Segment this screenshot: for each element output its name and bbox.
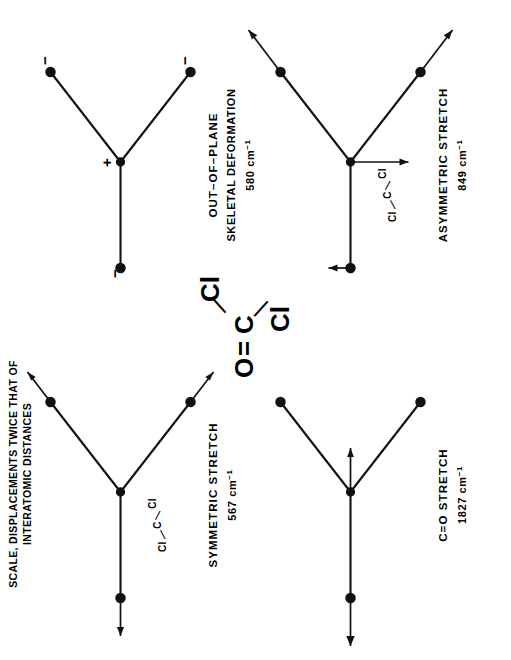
caption-asymmetric-stretch-wavenumber: 849 cm−1: [454, 0, 468, 330]
inset-cl-left: Cl: [386, 211, 397, 222]
bond-c-cl-lower: [120, 72, 190, 162]
molecular-structure-phosgene: O = C — Cl — Cl: [190, 268, 300, 378]
bond-c-cl-upper: [280, 72, 350, 162]
figure-page: SCALE, DISPLACEMENTS TWICE THAT OF INTER…: [0, 0, 511, 660]
arrow-o-head: [346, 636, 354, 646]
arrow-o-head: [328, 265, 337, 272]
atom-chlorine-lower: [416, 398, 424, 406]
arrow-o-head: [116, 627, 123, 636]
scale-note-line-1: SCALE, DISPLACEMENTS TWICE THAT OF: [6, 324, 20, 624]
arrow-c-head: [347, 448, 354, 457]
inset-skeleton-asymmetric: Cl—C—Cl: [386, 168, 397, 222]
bond-c-cl-upper: [50, 402, 120, 492]
sign-center-plus: +: [98, 158, 113, 167]
c-o-stretch-diagram: [258, 330, 443, 660]
atom-chlorine-lower: [186, 68, 194, 76]
atom-carbon: [116, 488, 123, 495]
out-of-plane-diagram: + − − −: [28, 0, 213, 330]
wavenumber-exponent-asymmetric: −1: [454, 139, 463, 149]
symmetric-stretch-diagram: [28, 330, 213, 660]
wavenumber-exponent-c-o: −1: [454, 466, 463, 476]
sign-oxygen-minus: −: [106, 269, 121, 278]
mode-panel-c-o-stretch: C=O STRETCH 1827 cm−1: [258, 330, 508, 660]
bond-c-cl-upper: [50, 72, 120, 162]
atom-chlorine-upper: [276, 398, 284, 406]
figure-rotated-canvas: SCALE, DISPLACEMENTS TWICE THAT OF INTER…: [0, 0, 511, 660]
sign-chlorine-upper-minus: −: [36, 56, 51, 65]
caption-c-o-stretch-title: C=O STRETCH: [436, 330, 448, 660]
atom-label-chlorine-upper: Cl: [194, 276, 225, 302]
sign-chlorine-lower-minus: −: [176, 56, 191, 65]
caption-c-o-stretch-wavenumber: 1827 cm−1: [454, 330, 468, 660]
wavenumber-exponent-symmetric: −1: [224, 469, 233, 479]
inset-cl-right: Cl: [146, 498, 157, 509]
caption-symmetric-stretch-title: SYMMETRIC STRETCH: [206, 330, 218, 660]
bond-c-cl-upper: [280, 402, 350, 492]
mode-panel-symmetric-stretch: Cl—C—Cl SYMMETRIC STRETCH 567 cm−1: [28, 330, 278, 660]
c-o-stretch-svg: [258, 330, 443, 660]
inset-bond-left: —: [384, 198, 399, 212]
atom-carbon: [116, 158, 123, 165]
wavenumber-value-asymmetric: 849 cm: [456, 150, 468, 191]
inset-bond-left: —: [154, 528, 169, 542]
inset-c: C: [381, 191, 392, 199]
inset-skeleton-symmetric: Cl—C—Cl: [156, 498, 167, 552]
symmetric-stretch-svg: [28, 330, 213, 660]
atom-label-carbon: C: [228, 315, 259, 334]
out-of-plane-svg: [28, 0, 213, 330]
atom-label-chlorine-lower: Cl: [264, 306, 295, 332]
inset-cl-left: Cl: [156, 541, 167, 552]
bond-c-cl-lower: [350, 72, 420, 162]
wavenumber-value-symmetric: 567 cm: [226, 480, 238, 521]
inset-cl-right: Cl: [376, 168, 387, 179]
bond-c-cl-lower: [350, 402, 420, 492]
inset-c: C: [151, 521, 162, 529]
atom-label-oxygen: O: [228, 358, 259, 378]
caption-symmetric-stretch-wavenumber: 567 cm−1: [224, 330, 238, 660]
wavenumber-value-c-o: 1827 cm: [456, 476, 468, 524]
bond-double-symbol: =: [228, 341, 259, 356]
caption-asymmetric-stretch-title: ASYMMETRIC STRETCH: [436, 0, 448, 330]
wavenumber-exponent-out-of-plane: −1: [242, 139, 251, 149]
atom-chlorine-upper: [46, 68, 54, 76]
wavenumber-value-out-of-plane: 580 cm: [244, 150, 256, 191]
arrow-c-head: [399, 159, 408, 166]
bond-c-cl-lower: [120, 402, 190, 492]
